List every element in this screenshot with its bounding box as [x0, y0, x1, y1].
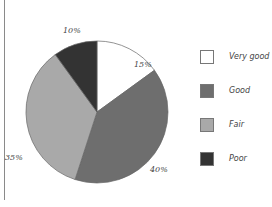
label-very-good: 15%	[134, 60, 152, 69]
legend-item-fair: Fair	[200, 118, 272, 134]
legend-label-fair: Fair	[229, 120, 244, 129]
label-poor: 10%	[63, 26, 81, 35]
swatch-fair	[200, 118, 214, 132]
legend-label-good: Good	[229, 86, 250, 95]
legend-item-good: Good	[200, 84, 272, 100]
legend-item-poor: Poor	[200, 152, 272, 168]
swatch-poor	[200, 152, 214, 166]
pie-chart	[0, 0, 272, 207]
legend-label-poor: Poor	[229, 154, 247, 163]
swatch-good	[200, 84, 214, 98]
legend-label-very-good: Very good	[229, 52, 269, 61]
legend-item-very-good: Very good	[200, 50, 272, 66]
swatch-very-good	[200, 50, 214, 64]
label-fair: 35%	[5, 153, 23, 162]
label-good: 40%	[150, 165, 168, 174]
